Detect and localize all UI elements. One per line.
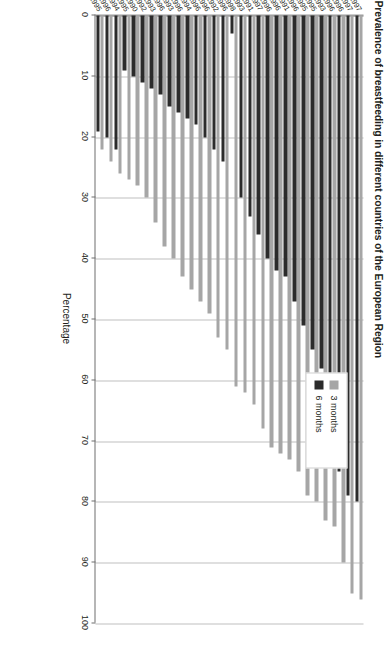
- bar-3-months: [207, 15, 211, 313]
- axis-tick: [91, 196, 95, 197]
- axis-tick-label: 0: [79, 11, 89, 16]
- bar-group: [175, 15, 184, 623]
- bar-group: [274, 15, 283, 623]
- bar-group: [345, 15, 354, 623]
- legend-item-3-months: 3 months: [326, 380, 341, 460]
- bar-group: [336, 15, 345, 623]
- bar-group: [104, 15, 113, 623]
- axis-tick: [91, 440, 95, 441]
- bar-group: [140, 15, 149, 623]
- axis-tick: [91, 561, 95, 562]
- bar-3-months: [350, 15, 354, 593]
- bar-6-months: [131, 15, 135, 76]
- chart-title: Prevalence of breastfeeding in different…: [372, 0, 383, 659]
- bar-6-months: [301, 15, 305, 325]
- axis-tick-label: 10: [79, 70, 89, 80]
- bar-3-months: [118, 15, 122, 173]
- bar-6-months: [194, 15, 198, 124]
- bar-group: [292, 15, 301, 623]
- chart-rotation-wrapper: Prevalence of breastfeeding in different…: [0, 0, 387, 659]
- bar-6-months: [355, 15, 359, 501]
- chart-legend: 3 months 6 months: [305, 372, 347, 468]
- bar-3-months: [198, 15, 202, 301]
- bar-6-months: [239, 15, 243, 197]
- bar-6-months: [140, 15, 144, 82]
- axis-tick: [91, 318, 95, 319]
- bar-3-months: [243, 15, 247, 392]
- bar-6-months: [212, 15, 216, 149]
- bar-group: [211, 15, 220, 623]
- bar-group: [131, 15, 140, 623]
- bar-6-months: [158, 15, 162, 94]
- bar-3-months: [189, 15, 193, 289]
- axis-tick-label: 20: [79, 131, 89, 141]
- bar-6-months: [310, 15, 314, 349]
- bar-group: [158, 15, 167, 623]
- bar-3-months: [135, 15, 139, 185]
- bar-3-months: [287, 15, 291, 459]
- axis-tick-label: 90: [79, 556, 89, 566]
- bar-group: [202, 15, 211, 623]
- bar-6-months: [122, 15, 126, 70]
- legend-swatch-6-months: [314, 380, 323, 389]
- bar-3-months: [153, 15, 157, 222]
- axis-tick-label: 30: [79, 191, 89, 201]
- bar-3-months: [252, 15, 256, 404]
- bar-6-months: [328, 15, 332, 398]
- bar-group: [354, 15, 363, 623]
- bar-3-months: [225, 15, 229, 349]
- bar-3-months: [109, 15, 113, 161]
- bar-3-months: [296, 15, 300, 471]
- bar-3-months: [341, 15, 345, 562]
- axis-tick: [91, 75, 95, 76]
- bar-group: [265, 15, 274, 623]
- bar-3-months: [180, 15, 184, 276]
- bar-6-months: [167, 15, 171, 106]
- axis-tick-label: 40: [79, 252, 89, 262]
- bar-6-months: [96, 15, 100, 131]
- bar-3-months: [127, 15, 131, 179]
- bar-3-months: [234, 15, 238, 386]
- bar-3-months: [144, 15, 148, 197]
- bar-6-months: [256, 15, 260, 234]
- bars-container: [95, 15, 363, 623]
- bar-6-months: [265, 15, 269, 258]
- bar-3-months: [269, 15, 273, 447]
- axis-tick: [91, 14, 95, 15]
- bar-group: [193, 15, 202, 623]
- bar-3-months: [359, 15, 363, 599]
- axis-tick-label: 70: [79, 435, 89, 445]
- bar-6-months: [230, 15, 234, 33]
- bar-6-months: [114, 15, 118, 149]
- axis-tick: [91, 136, 95, 137]
- legend-item-6-months: 6 months: [311, 380, 326, 460]
- bar-6-months: [149, 15, 153, 88]
- legend-label-6-months: 6 months: [314, 395, 324, 432]
- bar-group: [318, 15, 327, 623]
- bar-3-months: [261, 15, 265, 428]
- bar-6-months: [292, 15, 296, 301]
- legend-swatch-3-months: [329, 380, 338, 389]
- axis-tick: [91, 500, 95, 501]
- bar-group: [122, 15, 131, 623]
- bar-3-months: [100, 15, 104, 149]
- bar-group: [247, 15, 256, 623]
- bar-group: [220, 15, 229, 623]
- value-axis-title: Percentage: [60, 14, 71, 622]
- bar-3-months: [216, 15, 220, 337]
- category-axis-label: United Kingdom 1995: [58, 0, 103, 12]
- bar-group: [327, 15, 336, 623]
- bar-3-months: [162, 15, 166, 246]
- bar-6-months: [248, 15, 252, 216]
- axis-tick-label: 100: [79, 614, 89, 629]
- bar-group: [113, 15, 122, 623]
- axis-tick: [91, 379, 95, 380]
- bar-6-months: [283, 15, 287, 276]
- axis-tick-label: 50: [79, 313, 89, 323]
- axis-tick-label: 80: [79, 495, 89, 505]
- axis-tick-label: 60: [79, 374, 89, 384]
- bar-group: [166, 15, 175, 623]
- bar-group: [229, 15, 238, 623]
- axis-tick: [91, 622, 95, 623]
- bar-chart-figure: Prevalence of breastfeeding in different…: [0, 0, 387, 659]
